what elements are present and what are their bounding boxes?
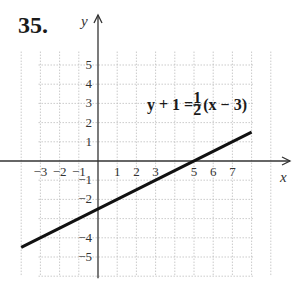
x-tick-label: 5 [191,164,198,179]
x-tick-label: 6 [210,164,217,179]
x-tick-label: −3 [33,164,47,179]
x-axis-label: x [279,169,287,185]
y-axis-label: y [79,13,88,29]
coordinate-plane: x y −3−2−112356754321−1−2−4−5 y + 1 = 1 … [0,0,296,290]
y-tick-label: −4 [78,230,92,245]
fraction-denominator: 2 [193,101,201,118]
y-tick-label: −2 [78,191,92,206]
y-tick-label: 3 [86,95,93,110]
axes: x y [0,13,290,278]
y-tick-label: 2 [86,115,93,130]
x-tick-label: 3 [152,164,159,179]
y-tick-label: 5 [86,57,93,72]
y-tick-label: 1 [86,134,93,149]
x-tick-label: 1 [114,164,121,179]
series-line [21,132,251,247]
equation-rhs: (x − 3) [203,96,247,114]
y-tick-label: −1 [78,172,92,187]
y-tick-label: 4 [86,76,93,91]
x-tick-label: −2 [53,164,67,179]
y-tick-label: −5 [78,249,92,264]
x-tick-label: 7 [229,164,236,179]
x-tick-label: 2 [133,164,140,179]
equation-lhs: y + 1 = [147,96,193,114]
equation-fraction: 1 2 [193,89,201,118]
equation-label: y + 1 = [147,96,193,114]
series-lines [21,132,251,247]
